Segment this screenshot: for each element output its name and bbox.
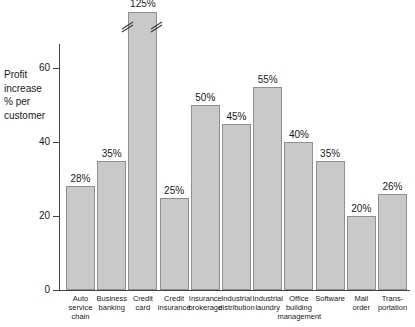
- y-axis-title: Profit increase % per customer: [4, 68, 56, 122]
- y-axis-tick: [53, 216, 60, 217]
- bar: [97, 161, 126, 291]
- bar-value-label: 125%: [120, 0, 165, 9]
- bar: [347, 216, 376, 290]
- y-axis-line: [59, 44, 60, 290]
- x-axis-category-label: Trans- portation: [371, 294, 414, 312]
- bar: [316, 161, 345, 291]
- y-axis-tick: [53, 290, 60, 291]
- bar-value-label: 26%: [370, 182, 415, 192]
- bar: [191, 105, 220, 290]
- bar-chart: Profit increase % per customer 0204060 2…: [0, 0, 415, 327]
- bar: [253, 87, 282, 291]
- y-axis-tick-label: 0: [20, 285, 50, 295]
- y-axis-tick-label: 60: [20, 63, 50, 73]
- y-axis-tick-label: 40: [20, 137, 50, 147]
- bar-value-label: 40%: [276, 130, 321, 140]
- bar: [128, 12, 157, 290]
- bar: [222, 124, 251, 291]
- bar: [160, 198, 189, 291]
- bar-value-label: 35%: [308, 149, 353, 159]
- y-axis-tick: [53, 68, 60, 69]
- bar: [284, 142, 313, 290]
- x-axis-line: [59, 290, 410, 291]
- bar-value-label: 55%: [245, 75, 290, 85]
- bar: [66, 186, 95, 290]
- bar: [378, 194, 407, 290]
- y-axis-tick: [53, 142, 60, 143]
- bar-value-label: 50%: [183, 93, 228, 103]
- y-axis-tick-label: 20: [20, 211, 50, 221]
